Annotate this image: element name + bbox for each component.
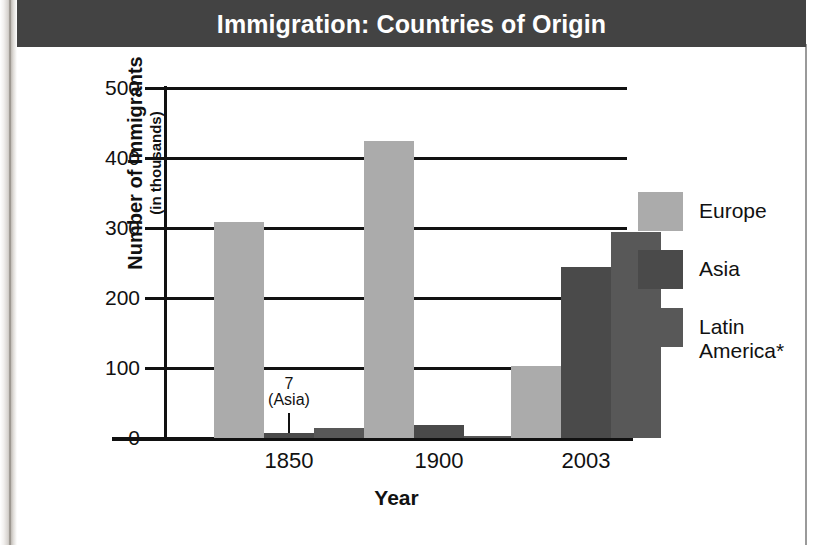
y-axis-tick <box>145 227 167 230</box>
x-axis-tick-label: 1900 <box>415 448 464 474</box>
bars-layer <box>166 88 627 438</box>
bar <box>364 141 414 438</box>
y-axis-tick <box>145 437 167 440</box>
bar <box>214 222 264 438</box>
y-axis-tick <box>145 367 167 370</box>
bar <box>314 428 364 439</box>
page-title: Immigration: Countries of Origin <box>17 9 806 38</box>
chart-card: Number of Immigrants (in thousands) 0100… <box>19 47 805 545</box>
y-axis-tick <box>145 297 167 300</box>
y-axis-tick-label: 100 <box>105 356 140 380</box>
y-axis-tick-label: 500 <box>105 76 140 100</box>
y-axis-title-units: (in thousands) <box>147 111 164 214</box>
legend-item[interactable]: Asia <box>638 250 806 289</box>
legend-label: Europe <box>699 192 767 223</box>
callout-value: 7 <box>268 376 310 392</box>
legend-swatch <box>638 250 683 289</box>
bar <box>464 436 514 438</box>
y-axis-tick-label: 400 <box>105 146 140 170</box>
plot-area: 0100200300400500 185019002003 7(Asia) Ye… <box>166 88 627 438</box>
x-axis-tick-label: 2003 <box>562 448 611 474</box>
bar <box>264 433 314 438</box>
chart-legend: EuropeAsiaLatin America* <box>638 192 806 381</box>
legend-swatch <box>638 308 683 347</box>
chart-page: Immigration: Countries of Origin Number … <box>0 0 816 545</box>
y-axis-tick-label: 200 <box>105 286 140 310</box>
legend-swatch <box>638 192 683 231</box>
legend-item[interactable]: Latin America* <box>638 308 806 362</box>
callout-series-label: (Asia) <box>268 392 310 408</box>
bar <box>511 366 561 438</box>
bar <box>414 425 464 438</box>
y-axis-tick <box>145 157 167 160</box>
y-axis-tick-label: 300 <box>105 216 140 240</box>
legend-item[interactable]: Europe <box>638 192 806 231</box>
bar <box>561 267 611 438</box>
scanned-page-edge <box>0 0 17 545</box>
legend-label: Latin America* <box>699 308 784 362</box>
x-axis-title: Year <box>166 486 627 510</box>
callout-leader-line <box>288 413 290 433</box>
legend-label: Asia <box>699 250 740 281</box>
y-axis-tick <box>145 87 167 90</box>
bar-value-callout: 7(Asia) <box>268 376 310 409</box>
y-axis-tick-label: 0 <box>128 426 140 450</box>
x-axis-tick-label: 1850 <box>265 448 314 474</box>
chart-title-banner: Immigration: Countries of Origin <box>17 0 806 47</box>
